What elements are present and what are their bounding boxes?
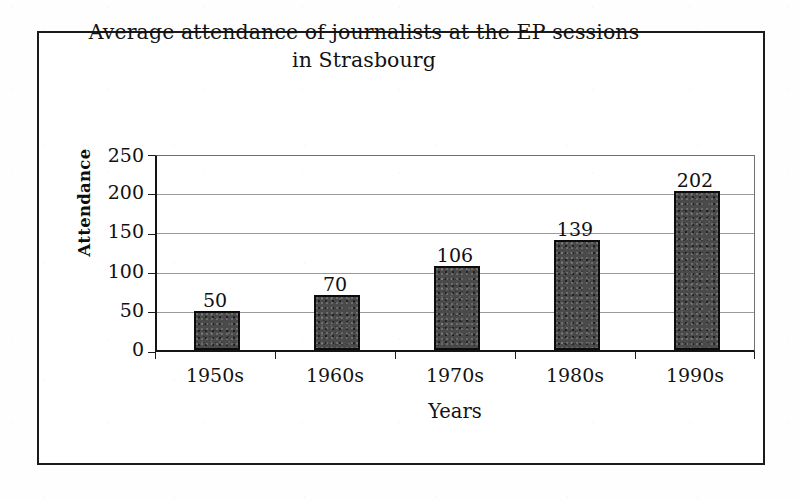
y-tick-label-50: 50 bbox=[96, 301, 144, 320]
y-tick-mark-100 bbox=[148, 273, 155, 274]
x-tick-mark-0 bbox=[155, 352, 156, 359]
y-axis-title: Attendance bbox=[75, 118, 94, 288]
x-axis-title: Years bbox=[155, 400, 755, 423]
x-tick-mark-3 bbox=[515, 352, 516, 359]
x-tick-label-1970s: 1970s bbox=[395, 364, 515, 386]
y-tick-mark-250 bbox=[148, 155, 155, 156]
data-label-1980s: 139 bbox=[515, 220, 635, 239]
y-tick-label-0: 0 bbox=[96, 340, 144, 359]
x-tick-label-1990s: 1990s bbox=[635, 364, 755, 386]
data-label-1970s: 106 bbox=[395, 246, 515, 265]
data-label-1960s: 70 bbox=[275, 275, 395, 294]
chart-title-line-2: in Strasbourg bbox=[60, 46, 668, 74]
gridline-150 bbox=[157, 233, 754, 234]
chart-title: Average attendance of journalists at the… bbox=[60, 18, 668, 74]
data-label-1950s: 50 bbox=[155, 291, 275, 310]
x-tick-label-1980s: 1980s bbox=[515, 364, 635, 386]
bar-1990s bbox=[674, 191, 720, 350]
chart-figure: Average attendance of journalists at the… bbox=[0, 0, 801, 500]
x-tick-mark-1 bbox=[275, 352, 276, 359]
x-tick-mark-5 bbox=[754, 352, 755, 359]
y-tick-label-200: 200 bbox=[96, 183, 144, 202]
y-tick-label-150: 150 bbox=[96, 222, 144, 241]
chart-title-line-1: Average attendance of journalists at the… bbox=[89, 20, 640, 44]
y-tick-mark-150 bbox=[148, 234, 155, 235]
y-tick-mark-50 bbox=[148, 312, 155, 313]
x-tick-mark-4 bbox=[635, 352, 636, 359]
x-tick-label-1960s: 1960s bbox=[275, 364, 395, 386]
y-tick-mark-0 bbox=[148, 352, 155, 353]
bar-1980s bbox=[554, 240, 600, 350]
gridline-200 bbox=[157, 194, 754, 195]
y-tick-mark-200 bbox=[148, 194, 155, 195]
bar-1970s bbox=[434, 266, 480, 350]
data-label-1990s: 202 bbox=[635, 171, 755, 190]
x-tick-label-1950s: 1950s bbox=[155, 364, 275, 386]
bar-1950s bbox=[194, 311, 240, 350]
y-tick-label-100: 100 bbox=[96, 262, 144, 281]
y-tick-label-250: 250 bbox=[96, 146, 144, 165]
x-tick-mark-2 bbox=[395, 352, 396, 359]
bar-1960s bbox=[314, 295, 360, 350]
